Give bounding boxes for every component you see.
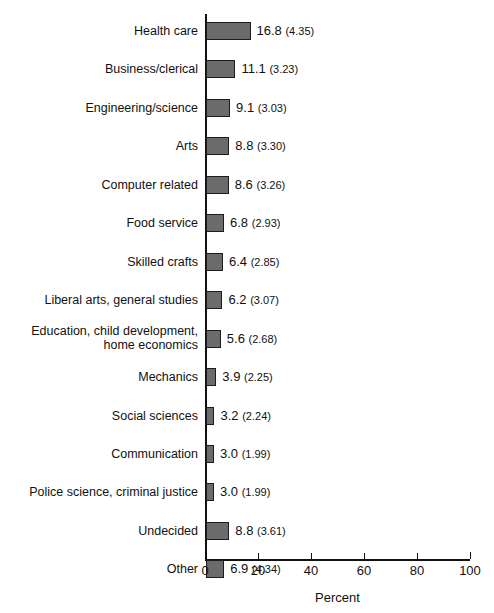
bar-value-label: 8.6 (3.26) <box>235 177 285 193</box>
x-tick-label: 20 <box>238 563 278 578</box>
bar-standard-error: (2.93) <box>252 217 281 229</box>
bar-standard-error: (4.35) <box>285 25 314 37</box>
bar-value-label: 6.8 (2.93) <box>230 215 280 231</box>
bar-value-label: 5.6 (2.68) <box>227 331 277 347</box>
bar-value-label: 9.1 (3.03) <box>236 100 286 116</box>
bar-value-label: 3.0 (1.99) <box>220 446 270 462</box>
category-label: Mechanics <box>8 370 198 384</box>
bar-row: Social sciences3.2 (2.24) <box>0 405 494 427</box>
category-label: Arts <box>8 139 198 153</box>
category-label: Liberal arts, general studies <box>8 293 198 307</box>
bar-value-label: 6.4 (2.85) <box>229 254 279 270</box>
bar-standard-error: (2.24) <box>242 410 271 422</box>
category-label: Engineering/science <box>8 101 198 115</box>
bar-row: Mechanics3.9 (2.25) <box>0 366 494 388</box>
bar-value: 8.6 <box>235 177 253 192</box>
category-label: Undecided <box>8 524 198 538</box>
x-axis-title: Percent <box>205 590 470 605</box>
x-tick-mark <box>258 553 259 559</box>
bar-value: 3.9 <box>222 369 240 384</box>
bar <box>206 22 251 40</box>
horizontal-bar-chart: Health care16.8 (4.35)Business/clerical1… <box>0 0 494 613</box>
category-label: Other <box>8 562 198 576</box>
x-tick-mark <box>470 552 471 559</box>
bar-value: 3.0 <box>220 446 238 461</box>
bar-row: Liberal arts, general studies6.2 (3.07) <box>0 289 494 311</box>
bar-row: Communication3.0 (1.99) <box>0 443 494 465</box>
category-axis-line <box>205 14 207 560</box>
bar-value-label: 3.0 (1.99) <box>220 484 270 500</box>
bar-value: 6.2 <box>228 292 246 307</box>
bar-standard-error: (3.61) <box>257 525 286 537</box>
category-label: Education, child development, home econo… <box>8 324 198 352</box>
bar-value-label: 8.8 (3.30) <box>235 138 285 154</box>
bar-value: 6.8 <box>230 215 248 230</box>
bar-row: Computer related8.6 (3.26) <box>0 174 494 196</box>
category-label: Health care <box>8 24 198 38</box>
bar-row: Undecided8.8 (3.61) <box>0 520 494 542</box>
bar <box>206 253 223 271</box>
category-label: Police science, criminal justice <box>8 485 198 499</box>
bar-standard-error: (3.23) <box>269 63 298 75</box>
bar-value: 3.0 <box>220 484 238 499</box>
bar-row: Health care16.8 (4.35) <box>0 20 494 42</box>
bar-value-label: 16.8 (4.35) <box>257 23 315 39</box>
category-label: Food service <box>8 216 198 230</box>
bar-standard-error: (1.99) <box>242 448 271 460</box>
bar-value: 11.1 <box>241 61 265 76</box>
bar-value: 16.8 <box>257 23 282 38</box>
bar-value: 8.8 <box>235 523 253 538</box>
bar <box>206 176 229 194</box>
x-tick-label: 80 <box>397 563 437 578</box>
x-tick-mark <box>364 553 365 559</box>
category-label: Social sciences <box>8 409 198 423</box>
x-tick-mark <box>311 553 312 559</box>
bar-standard-error: (1.99) <box>242 486 271 498</box>
x-tick-mark <box>205 553 206 559</box>
bar-standard-error: (3.26) <box>256 179 285 191</box>
bar <box>206 214 224 232</box>
bar-row: Engineering/science9.1 (3.03) <box>0 97 494 119</box>
bar <box>206 483 214 501</box>
bar-value-label: 11.1 (3.23) <box>241 61 298 77</box>
bar-row: Business/clerical11.1 (3.23) <box>0 58 494 80</box>
category-label: Business/clerical <box>8 62 198 76</box>
bar-standard-error: (2.68) <box>249 333 278 345</box>
bar-value-label: 8.8 (3.61) <box>235 523 285 539</box>
bar <box>206 137 229 155</box>
bar-row: Police science, criminal justice3.0 (1.9… <box>0 481 494 503</box>
bar <box>206 60 235 78</box>
bar-value-label: 3.9 (2.25) <box>222 369 272 385</box>
bar-value-label: 6.2 (3.07) <box>228 292 278 308</box>
bar <box>206 445 214 463</box>
bar-standard-error: (3.30) <box>257 140 286 152</box>
bar <box>206 291 222 309</box>
bar-value: 6.4 <box>229 254 247 269</box>
category-label: Communication <box>8 447 198 461</box>
bar <box>206 99 230 117</box>
bar-row: Skilled crafts6.4 (2.85) <box>0 251 494 273</box>
bar-row: Education, child development, home econo… <box>0 328 494 350</box>
x-tick-label: 0 <box>185 563 225 578</box>
bar-row: Food service6.8 (2.93) <box>0 212 494 234</box>
bar-standard-error: (2.25) <box>244 371 273 383</box>
bar-value: 9.1 <box>236 100 254 115</box>
bar-standard-error: (3.03) <box>258 102 287 114</box>
bar <box>206 522 229 540</box>
bar <box>206 368 216 386</box>
bar-value: 8.8 <box>235 138 253 153</box>
bar-standard-error: (2.85) <box>251 256 280 268</box>
bar-row: Arts8.8 (3.30) <box>0 135 494 157</box>
x-tick-label: 100 <box>450 563 490 578</box>
bar <box>206 330 221 348</box>
x-tick-label: 40 <box>291 563 331 578</box>
x-tick-label: 60 <box>344 563 384 578</box>
category-label: Computer related <box>8 178 198 192</box>
bar-value-label: 3.2 (2.24) <box>220 408 270 424</box>
bar-standard-error: (3.07) <box>250 294 279 306</box>
bar-value: 3.2 <box>220 408 238 423</box>
x-tick-mark <box>417 553 418 559</box>
category-label: Skilled crafts <box>8 255 198 269</box>
bar-value: 5.6 <box>227 331 245 346</box>
bar <box>206 407 214 425</box>
